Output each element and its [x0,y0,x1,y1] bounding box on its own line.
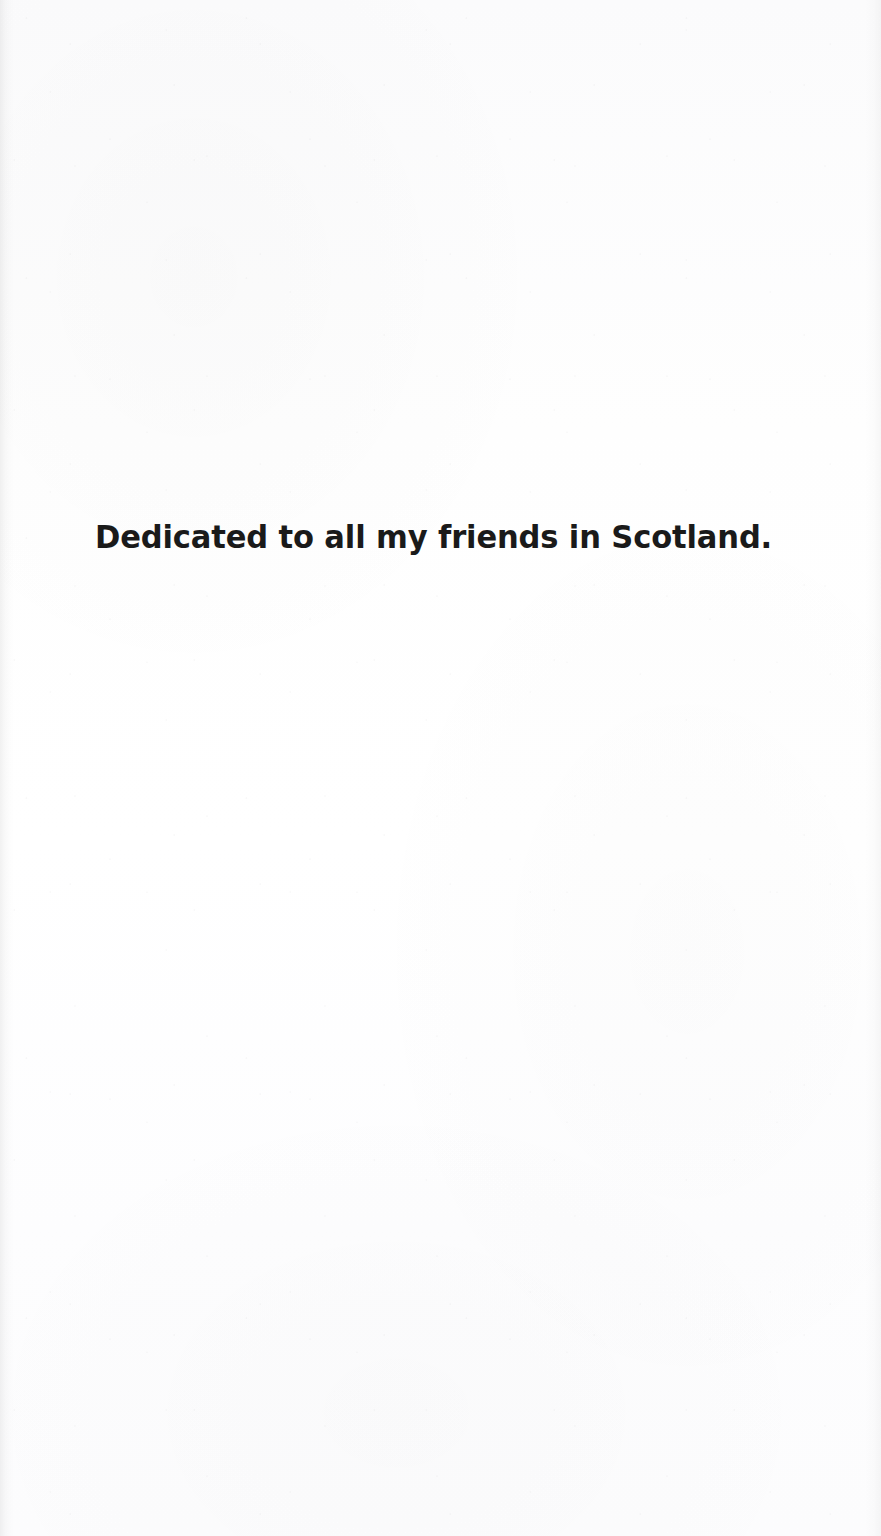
left-gutter-shadow [0,0,14,1536]
right-edge-shadow [865,0,881,1536]
scanned-page: Dedicated to all my friends in Scotland. [0,0,881,1536]
dedication-text: Dedicated to all my friends in Scotland. [95,515,772,559]
paper-texture [0,0,881,1536]
page-scan-tone [0,0,881,1536]
dedication-block: Dedicated to all my friends in Scotland. [0,515,867,559]
